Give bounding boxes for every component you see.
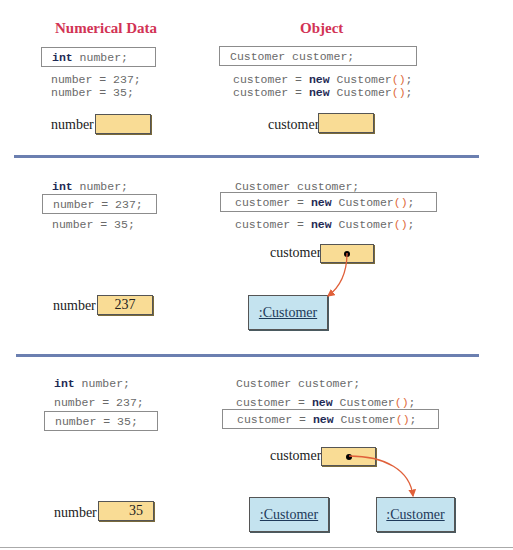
- panel2-assign-35: number = 35;: [52, 218, 135, 231]
- panel2-highlight-assign-237: number = 237;: [42, 194, 157, 214]
- new-keyword: new: [309, 86, 330, 99]
- new-keyword: new: [312, 396, 333, 409]
- panel1-new-customer-1: customer = new Customer();: [233, 73, 412, 86]
- panel2-highlight-new-customer: customer = new Customer();: [220, 192, 437, 212]
- panel1-customer-label: customer: [268, 117, 319, 133]
- code-text: number = 35;: [55, 415, 138, 428]
- panel3-new-customer-1: customer = new Customer();: [236, 396, 415, 409]
- panel2-customer-label: customer: [270, 245, 321, 261]
- panel2-new-customer-2: customer = new Customer();: [235, 218, 414, 231]
- number-value: 35: [129, 503, 143, 519]
- panel2-customer-object: :Customer: [248, 295, 328, 330]
- code-text: Customer customer;: [230, 50, 354, 63]
- panel2-number-label: number: [53, 298, 96, 314]
- panel2-customer-cell: [320, 244, 374, 263]
- new-keyword: new: [309, 73, 330, 86]
- panel1-number-label: number: [51, 117, 94, 133]
- panel1-assign-237: number = 237;: [51, 73, 141, 86]
- panel1-number-cell: [95, 114, 151, 134]
- panel3-customer-label: customer: [270, 448, 321, 464]
- divider-2: [16, 354, 479, 357]
- int-keyword: int: [52, 51, 73, 64]
- int-keyword: int: [52, 180, 73, 193]
- reference-dot: [344, 251, 350, 257]
- panel3-customer-cell: [321, 447, 376, 466]
- divider-1: [14, 155, 479, 158]
- int-keyword: int: [54, 377, 75, 390]
- panel1-highlight-int-decl: int number;: [41, 47, 156, 67]
- panel1-customer-cell: [318, 113, 374, 133]
- panel3-number-cell: 35: [98, 501, 154, 521]
- panel3-assign-237: number = 237;: [54, 396, 144, 409]
- new-keyword: new: [313, 413, 334, 426]
- panel3-highlight-assign-35: number = 35;: [44, 411, 158, 431]
- new-keyword: new: [311, 218, 332, 231]
- panel1-highlight-customer-decl: Customer customer;: [219, 46, 417, 66]
- panel2-number-cell: 237: [97, 295, 153, 315]
- panel3-customer-decl: Customer customer;: [236, 377, 360, 390]
- new-keyword: new: [311, 196, 332, 209]
- panel2-int-decl: int number;: [52, 180, 128, 193]
- panel3-int-decl: int number;: [54, 377, 130, 390]
- reference-dot: [346, 454, 352, 460]
- panel3-customer-object-old: :Customer: [249, 497, 329, 532]
- panel1-new-customer-2: customer = new Customer();: [233, 86, 412, 99]
- panel3-customer-object-new: :Customer: [376, 497, 455, 532]
- code-text: number;: [73, 51, 128, 64]
- numerical-data-header: Numerical Data: [55, 20, 157, 37]
- panel3-number-label: number: [54, 505, 97, 521]
- code-text: number = 237;: [53, 198, 143, 211]
- panel3-highlight-new-customer: customer = new Customer();: [222, 409, 439, 429]
- object-header: Object: [300, 20, 343, 37]
- panel1-assign-35: number = 35;: [51, 86, 134, 99]
- bottom-border: [0, 547, 513, 548]
